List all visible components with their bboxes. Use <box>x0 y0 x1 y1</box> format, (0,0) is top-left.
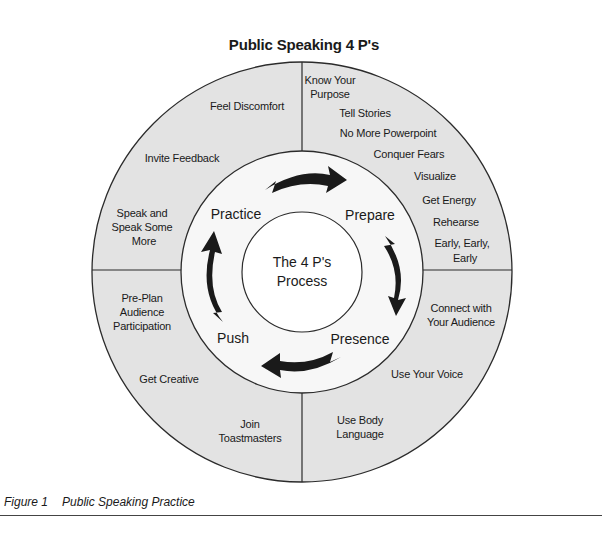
presence-item-use-body: Use Body <box>337 413 383 428</box>
push-item-get-creative: Get Creative <box>139 372 198 387</box>
caption-rule <box>0 515 602 516</box>
stage-practice: Practice <box>211 206 262 222</box>
practice-item-more: More <box>132 234 156 249</box>
practice-item-feel-discomfort: Feel Discomfort <box>210 99 284 114</box>
figure-number: Figure 1 <box>4 495 48 509</box>
figure-caption-text: Public Speaking Practice <box>62 495 195 509</box>
presence-item-use-your-voice: Use Your Voice <box>391 367 463 382</box>
center-label: The 4 P's Process <box>273 253 332 291</box>
prepare-item-rehearse: Rehearse <box>433 215 479 230</box>
center-label-line1: The 4 P's <box>273 253 332 272</box>
practice-item-speak-and: Speak and <box>117 206 168 221</box>
push-item-audience: Audience <box>120 305 164 320</box>
push-item-pre-plan: Pre-Plan <box>121 291 162 306</box>
prepare-item-no-more-powerpoint: No More Powerpoint <box>340 126 437 141</box>
stage-presence: Presence <box>330 331 389 347</box>
presence-item-your-audience: Your Audience <box>427 315 495 330</box>
center-label-line2: Process <box>273 272 332 291</box>
prepare-item-get-energy: Get Energy <box>422 193 476 208</box>
stage-push: Push <box>217 330 249 346</box>
prepare-item-tell-stories: Tell Stories <box>339 106 390 121</box>
push-item-toastmasters: Toastmasters <box>218 431 281 446</box>
practice-item-speak-some: Speak Some <box>112 220 173 235</box>
practice-item-invite-feedback: Invite Feedback <box>145 151 220 166</box>
prepare-item-know-your: Know Your <box>305 73 356 88</box>
push-item-join: Join <box>240 417 259 432</box>
presence-item-language: Language <box>336 427 383 442</box>
push-item-participation: Participation <box>113 319 171 334</box>
prepare-item-early: Early <box>453 251 477 266</box>
presence-item-connect-with: Connect with <box>430 301 491 316</box>
prepare-item-purpose: Purpose <box>310 87 350 102</box>
prepare-item-conquer-fears: Conquer Fears <box>374 147 445 162</box>
figure-caption: Figure 1Public Speaking Practice <box>4 495 195 509</box>
prepare-item-visualize: Visualize <box>414 169 456 184</box>
prepare-item-early-early: Early, Early, <box>434 236 489 251</box>
stage-prepare: Prepare <box>345 207 395 223</box>
